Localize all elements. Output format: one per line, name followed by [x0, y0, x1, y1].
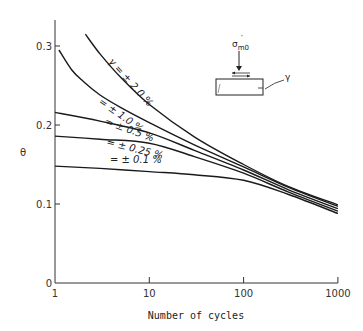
shear-arrow-head-right — [247, 75, 250, 78]
curve-label-4: = ± 0.1 % — [110, 154, 162, 165]
stress-arrow-head — [236, 66, 242, 71]
y-tick-label: 0 — [46, 278, 52, 289]
curves — [55, 34, 338, 213]
chart-figure: 110100100000.10.20.3 γ = ± 2.0 %= ± 1.0 … — [0, 0, 363, 331]
x-tick-label: 1000 — [325, 288, 350, 299]
x-tick-label: 10 — [143, 288, 156, 299]
stress-label: σm0′ — [232, 35, 249, 52]
chart-svg: 110100100000.10.20.3 γ = ± 2.0 %= ± 1.0 … — [0, 0, 363, 331]
curve-series-1 — [59, 50, 338, 206]
shear-arrow-head-left — [232, 72, 235, 75]
y-tick-label: 0.3 — [36, 41, 52, 52]
y-tick-label: 0.1 — [36, 199, 52, 210]
curve-series-3 — [55, 136, 338, 211]
curve-label-0: γ = ± 2.0 % — [107, 56, 156, 109]
specimen-rect — [216, 79, 263, 95]
y-tick-label: 0.2 — [36, 120, 52, 131]
x-tick-label: 100 — [234, 288, 253, 299]
specimen-inset: σm0′ γ — [216, 35, 291, 95]
specimen-shear-line — [218, 84, 220, 93]
strain-leader — [265, 80, 284, 89]
x-tick-label: 1 — [52, 288, 58, 299]
y-axis-label: θ — [20, 147, 26, 158]
strain-label: γ — [285, 72, 291, 82]
x-axis-label: Number of cycles — [148, 310, 244, 321]
axes: 110100100000.10.20.3 — [36, 20, 351, 299]
curve-labels: γ = ± 2.0 %= ± 1.0 %= ± 0.5 %= ± 0.25 %=… — [97, 56, 165, 165]
